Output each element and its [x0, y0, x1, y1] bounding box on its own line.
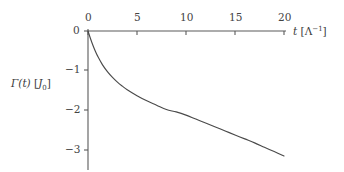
y-axis-ticks	[84, 31, 88, 150]
ytick-label-minus1: −1	[65, 63, 80, 75]
x-axis-title-unit: [Λ−1]	[297, 25, 326, 37]
y-axis-title-var: Γ(t)	[11, 77, 31, 89]
ytick-label-minus2: −2	[65, 103, 80, 115]
xtick-label-5: 5	[134, 11, 141, 23]
xtick-label-0: 0	[85, 11, 92, 23]
ytick-label-minus3: −3	[65, 143, 80, 155]
figure-container: 0 5 10 15 20 0 −1 −2 −3 t [Λ−1] Γ(t) [J0…	[0, 0, 344, 172]
x-axis-ticks	[88, 31, 284, 35]
xtick-label-15: 15	[229, 11, 242, 23]
xtick-label-20: 20	[278, 11, 291, 23]
data-series-gamma	[88, 31, 284, 156]
ytick-label-0: 0	[73, 24, 80, 36]
y-axis-title: Γ(t) [J0]	[11, 77, 51, 92]
x-axis-title: t [Λ−1]	[293, 24, 327, 37]
y-axis-title-unit: [J0]	[31, 77, 51, 89]
xtick-label-10: 10	[180, 11, 193, 23]
